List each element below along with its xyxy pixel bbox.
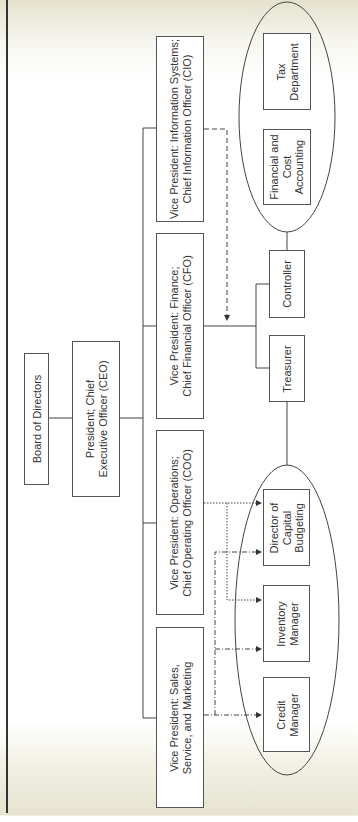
inventory-manager-box: Inventory Manager xyxy=(263,585,310,662)
fca-label-line: Cost xyxy=(281,134,294,199)
cfo-label-line: Chief Financial Officer (CFO) xyxy=(180,255,193,397)
ceo-label-line: Executive Officer (CEO) xyxy=(96,360,109,477)
cio-label-line: Vice President: Information Systems; xyxy=(168,39,181,219)
dcb-label: Director of Capital Budgeting xyxy=(268,502,306,553)
inv-label: Inventory Manager xyxy=(274,601,299,646)
ceo-label: President; Chief Executive Officer (CEO) xyxy=(84,360,109,477)
treasurer-label-line: Treasurer xyxy=(281,345,294,392)
ceo-box: President; Chief Executive Officer (CEO) xyxy=(72,341,120,497)
fca-label-line: Accounting xyxy=(293,134,306,199)
inv-label-line: Inventory xyxy=(274,601,287,646)
cio-label-line: Chief Information Officer (CIO) xyxy=(180,39,193,219)
cfo-label-line: Vice President: Finance; xyxy=(168,255,181,397)
inv-label-line: Manager xyxy=(287,601,300,646)
treasurer-box: Treasurer xyxy=(269,335,305,402)
board-label: Board of Directors xyxy=(30,375,43,464)
treasurer-label: Treasurer xyxy=(281,345,294,392)
controller-label-line: Controller xyxy=(281,260,294,308)
sales-label-line: Vice President: Sales, xyxy=(168,661,181,774)
director-capital-budgeting-box: Director of Capital Budgeting xyxy=(263,489,310,566)
credit-label-line: Credit xyxy=(274,693,287,736)
sales-label: Vice President: Sales, Service, and Mark… xyxy=(168,661,193,774)
board-of-directors-box: Board of Directors xyxy=(24,353,49,485)
cio-label: Vice President: Information Systems; Chi… xyxy=(168,39,193,219)
cfo-label: Vice President: Finance; Chief Financial… xyxy=(168,255,193,397)
coo-box: Vice President: Operations; Chief Operat… xyxy=(156,430,204,615)
tax-label: Tax Department xyxy=(275,43,300,100)
credit-manager-box: Credit Manager xyxy=(263,677,310,752)
coo-label-line: Vice President: Operations; xyxy=(168,449,181,597)
ceo-label-line: President; Chief xyxy=(84,360,97,477)
dcb-label-line: Budgeting xyxy=(293,502,306,553)
sales-box: Vice President: Sales, Service, and Mark… xyxy=(156,627,204,808)
financial-cost-accounting-box: Financial and Cost Accounting xyxy=(263,129,311,205)
tax-label-line: Tax xyxy=(275,43,288,100)
credit-label-line: Manager xyxy=(287,693,300,736)
cfo-box: Vice President: Finance; Chief Financial… xyxy=(156,233,204,419)
dcb-label-line: Director of xyxy=(268,502,281,553)
dcb-label-line: Capital xyxy=(280,502,293,553)
cio-box: Vice President: Information Systems; Chi… xyxy=(156,36,204,222)
sales-label-line: Service, and Marketing xyxy=(180,661,193,774)
fca-label: Financial and Cost Accounting xyxy=(268,134,306,199)
controller-box: Controller xyxy=(269,250,305,318)
coo-label-line: Chief Operating Officer (COO) xyxy=(180,449,193,597)
fca-label-line: Financial and xyxy=(268,134,281,199)
tax-department-box: Tax Department xyxy=(263,33,311,110)
tax-label-line: Department xyxy=(287,43,300,100)
coo-label: Vice President: Operations; Chief Operat… xyxy=(168,449,193,597)
board-label-line: Board of Directors xyxy=(30,375,43,464)
controller-label: Controller xyxy=(281,260,294,308)
credit-label: Credit Manager xyxy=(274,693,299,736)
